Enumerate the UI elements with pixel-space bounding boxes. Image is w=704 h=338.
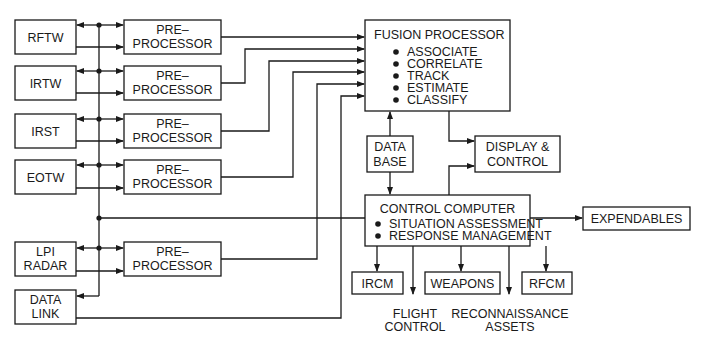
sensor-row-eotw: EOTW PRE– PROCESSOR: [15, 160, 221, 194]
sensor-row-irst: IRST PRE– PROCESSOR: [15, 114, 221, 148]
svg-text:PROCESSOR: PROCESSOR: [133, 37, 213, 51]
svg-text:WEAPONS: WEAPONS: [431, 277, 495, 291]
svg-text:PRE–: PRE–: [156, 69, 189, 83]
rftw-label: RFTW: [27, 31, 63, 45]
sensor-row-irtw: IRTW PRE– PROCESSOR: [15, 66, 221, 100]
sensor-row-data-link: DATA LINK: [15, 290, 99, 324]
svg-text:DATA: DATA: [374, 140, 406, 154]
display-and-control: DISPLAY & CONTROL: [449, 111, 560, 195]
svg-text:RADAR: RADAR: [24, 259, 68, 273]
svg-text:BASE: BASE: [373, 155, 406, 169]
svg-text:IRST: IRST: [31, 125, 60, 139]
svg-text:ASSETS: ASSETS: [485, 320, 534, 334]
svg-text:RESPONSE MANAGEMENT: RESPONSE MANAGEMENT: [389, 229, 552, 243]
svg-text:PRE–: PRE–: [156, 23, 189, 37]
svg-text:EOTW: EOTW: [27, 171, 65, 185]
svg-text:IRTW: IRTW: [30, 77, 62, 91]
sensor-row-rftw: RFTW PRE– PROCESSOR: [15, 20, 221, 54]
svg-text:CLASSIFY: CLASSIFY: [407, 93, 468, 107]
svg-text:IRCM: IRCM: [362, 277, 394, 291]
svg-text:CONTROL COMPUTER: CONTROL COMPUTER: [380, 202, 516, 216]
data-base: DATA BASE: [367, 112, 413, 194]
expendables: EXPENDABLES: [530, 207, 690, 230]
svg-text:PROCESSOR: PROCESSOR: [133, 83, 213, 97]
svg-text:DATA: DATA: [30, 293, 62, 307]
svg-text:EXPENDABLES: EXPENDABLES: [591, 212, 683, 226]
svg-text:LINK: LINK: [32, 307, 60, 321]
svg-text:PROCESSOR: PROCESSOR: [133, 177, 213, 191]
control-outputs: IRCM FLIGHT CONTROL WEAPONS RECONNAISSAN…: [352, 246, 572, 334]
sensor-fusion-block-diagram: RFTW PRE– PROCESSOR IRTW PRE– PROCESSOR …: [0, 0, 704, 338]
svg-text:CONTROL: CONTROL: [487, 155, 548, 169]
svg-text:FUSION PROCESSOR: FUSION PROCESSOR: [374, 28, 505, 42]
svg-text:PRE–: PRE–: [156, 245, 189, 259]
svg-text:PRE–: PRE–: [156, 163, 189, 177]
sensor-row-lpi-radar: LPI RADAR PRE– PROCESSOR: [15, 242, 221, 276]
svg-text:LPI: LPI: [36, 245, 55, 259]
svg-text:RFCM: RFCM: [529, 277, 565, 291]
fusion-processor: FUSION PROCESSOR ASSOCIATE CORRELATE TRA…: [365, 20, 510, 111]
svg-text:PRE–: PRE–: [156, 117, 189, 131]
svg-text:PROCESSOR: PROCESSOR: [133, 259, 213, 273]
flight-control-label: FLIGHT: [393, 307, 438, 321]
svg-text:DISPLAY &: DISPLAY &: [486, 140, 550, 154]
svg-text:PROCESSOR: PROCESSOR: [133, 131, 213, 145]
reconnaissance-label: RECONNAISSANCE: [451, 307, 568, 321]
svg-text:CONTROL: CONTROL: [384, 320, 445, 334]
control-computer: CONTROL COMPUTER SITUATION ASSESSMENT RE…: [365, 195, 552, 246]
